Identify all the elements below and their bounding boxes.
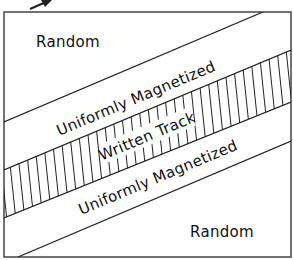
recording-diagram: Random Uniformly Magnetized Written Trac… [0,0,293,260]
random-bottom-label: Random [190,223,254,241]
random-top-label: Random [36,33,100,51]
arrow-icon [30,0,52,9]
